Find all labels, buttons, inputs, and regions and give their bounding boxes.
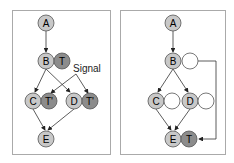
svg-text:T': T' — [86, 96, 94, 107]
svg-text:A: A — [43, 18, 50, 29]
svg-text:T: T — [186, 134, 192, 145]
signal-label: Signal — [73, 63, 101, 74]
thread-t-prime-c: T' — [41, 93, 57, 109]
node-c: C — [25, 93, 41, 109]
svg-text:B: B — [170, 56, 177, 67]
node-e: E — [165, 131, 181, 147]
node-a: A — [165, 15, 181, 31]
svg-text:E: E — [170, 134, 177, 145]
svg-text:T: T — [59, 56, 65, 67]
node-d: D — [66, 93, 82, 109]
diagram: Signal A B T C T' D T' E A B C D E T — [0, 0, 234, 163]
empty-slot-c — [164, 93, 180, 109]
empty-slot-d — [198, 93, 214, 109]
node-c: C — [148, 93, 164, 109]
svg-text:B: B — [43, 56, 50, 67]
empty-slot-b — [182, 53, 198, 69]
svg-text:D: D — [70, 96, 77, 107]
node-b: B — [165, 53, 181, 69]
thread-t-prime-d: T' — [82, 93, 98, 109]
svg-text:A: A — [170, 18, 177, 29]
thread-t: T — [54, 53, 70, 69]
node-a: A — [38, 15, 54, 31]
svg-text:D: D — [186, 96, 193, 107]
signal-arrow — [76, 74, 88, 93]
node-e: E — [38, 131, 54, 147]
thread-t: T — [181, 131, 197, 147]
node-b: B — [38, 53, 54, 69]
svg-text:T': T' — [45, 96, 53, 107]
node-d: D — [182, 93, 198, 109]
svg-text:C: C — [29, 96, 36, 107]
right-panel: A B C D E T — [121, 11, 226, 155]
svg-text:C: C — [152, 96, 159, 107]
svg-text:E: E — [43, 134, 50, 145]
left-panel: Signal A B T C T' D T' E — [13, 11, 111, 155]
left-panel-border — [13, 11, 111, 155]
